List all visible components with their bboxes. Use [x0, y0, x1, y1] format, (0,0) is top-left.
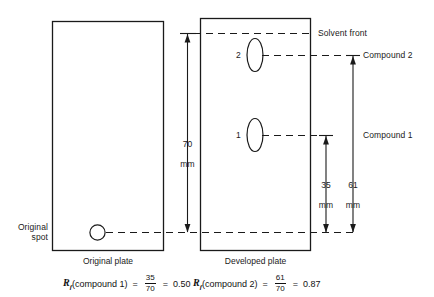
- compound-1-label: Compound 1: [363, 130, 413, 140]
- dim-61-arrowhead-top: [350, 56, 356, 65]
- figure-linework: [0, 0, 434, 297]
- dim-35-unit: mm: [319, 200, 333, 210]
- dim-70-value: 70: [183, 139, 193, 149]
- dim-70-label: 70 mm: [170, 129, 205, 169]
- rf-denominator-2: 70: [275, 285, 286, 293]
- original-plate-outline: [53, 22, 164, 251]
- dim-35-arrowhead-top: [323, 136, 329, 145]
- rf-equals-2: =: [263, 279, 268, 289]
- rf-fraction-2: 61 70: [275, 274, 286, 293]
- dim-70-arrowhead-top: [185, 34, 191, 43]
- rf-equals2-2: =: [293, 279, 298, 289]
- rf-equals-1: =: [133, 279, 138, 289]
- dim-35-arrowhead-bottom: [323, 224, 329, 233]
- rf-result-1: 0.50: [173, 279, 191, 289]
- spot-2-mark: [247, 39, 263, 72]
- dim-61-unit: mm: [346, 200, 360, 210]
- rf-symbol-1: Rf: [63, 277, 72, 291]
- original-spot-mark: [90, 225, 105, 240]
- rf-denominator-1: 70: [145, 285, 156, 293]
- rf-symbol-2: Rf: [193, 277, 202, 291]
- rf-numerator-1: 35: [145, 274, 156, 282]
- developed-plate-outline: [201, 19, 311, 251]
- spot-2-number: 2: [236, 50, 241, 60]
- rf-argument-1: (compound 1): [72, 279, 128, 289]
- rf-fraction-1: 35 70: [145, 274, 156, 293]
- original-spot-label: Original spot: [0, 222, 48, 242]
- dim-70-arrowhead-bottom: [185, 224, 191, 233]
- rf-compound-1-equation: Rf(compound 1) = 35 70 = 0.50: [63, 274, 191, 293]
- developed-plate-caption: Developed plate: [200, 256, 311, 266]
- solvent-front-label: Solvent front: [318, 28, 367, 38]
- dim-70-unit: mm: [180, 159, 194, 169]
- spot-1-mark: [247, 119, 263, 152]
- dim-61-label: 61 mm: [336, 170, 370, 210]
- rf-compound-2-equation: Rf(compound 2) = 61 70 = 0.87: [193, 274, 321, 293]
- rf-result-2: 0.87: [303, 279, 321, 289]
- compound-2-label: Compound 2: [363, 50, 413, 60]
- tlc-figure: Original spot Solvent front Compound 2 C…: [0, 0, 434, 297]
- dim-35-value: 35: [321, 180, 331, 190]
- rf-equals2-1: =: [163, 279, 168, 289]
- dim-61-value: 61: [348, 180, 358, 190]
- rf-argument-2: (compound 2): [202, 279, 258, 289]
- spot-1-number: 1: [236, 130, 241, 140]
- original-plate-caption: Original plate: [52, 256, 164, 266]
- dim-61-arrowhead-bottom: [350, 224, 356, 233]
- rf-numerator-2: 61: [275, 274, 286, 282]
